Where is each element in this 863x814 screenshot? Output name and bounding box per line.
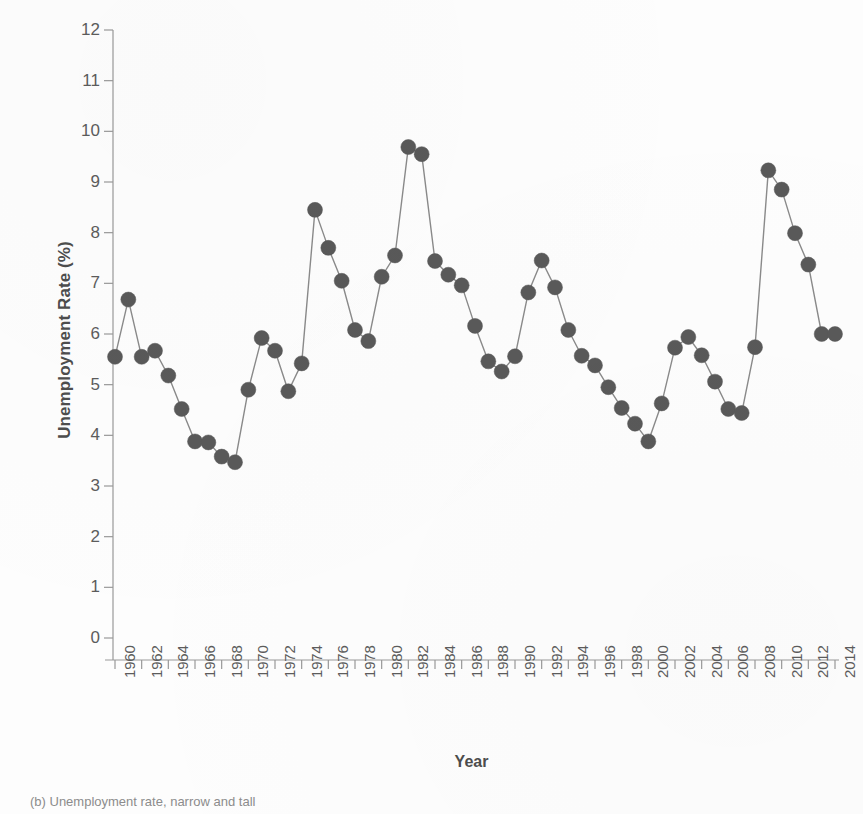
x-tick-label: 2004 [708, 645, 725, 678]
x-tick-label: 1960 [121, 645, 138, 678]
figure-container: 1211109876543210 19601962196419661968197… [0, 0, 863, 814]
x-tick-label: 1988 [494, 645, 511, 678]
x-axis-title: Year [0, 753, 863, 771]
x-tick-label: 1984 [441, 645, 458, 678]
x-tick-label: 1998 [628, 645, 645, 678]
x-tick-label: 1966 [201, 645, 218, 678]
x-tick-label: 2000 [654, 645, 671, 678]
x-axis-tick-labels: 1960196219641966196819701972197419761978… [0, 0, 863, 814]
x-tick-label: 1986 [468, 645, 485, 678]
x-tick-label: 1996 [601, 645, 618, 678]
x-tick-label: 1990 [521, 645, 538, 678]
figure-caption: (b) Unemployment rate, narrow and tall [30, 794, 255, 809]
x-tick-label: 2008 [761, 645, 778, 678]
x-tick-label: 2002 [681, 645, 698, 678]
x-tick-label: 1972 [281, 645, 298, 678]
x-tick-label: 1994 [574, 645, 591, 678]
x-tick-label: 1968 [228, 645, 245, 678]
y-axis-title: Unemployment Rate (%) [55, 170, 75, 510]
x-tick-label: 2012 [814, 645, 831, 678]
x-tick-label: 1970 [254, 645, 271, 678]
x-tick-label: 1974 [308, 645, 325, 678]
plot-area: 1211109876543210 19601962196419661968197… [0, 0, 863, 814]
x-tick-label: 1962 [148, 645, 165, 678]
x-tick-label: 1978 [361, 645, 378, 678]
x-tick-label: 1980 [388, 645, 405, 678]
x-tick-label: 1976 [334, 645, 351, 678]
x-tick-label: 1992 [548, 645, 565, 678]
x-tick-label: 1982 [414, 645, 431, 678]
x-tick-label: 2014 [841, 645, 858, 678]
x-tick-label: 2010 [788, 645, 805, 678]
x-tick-label: 2006 [734, 645, 751, 678]
x-tick-label: 1964 [174, 645, 191, 678]
